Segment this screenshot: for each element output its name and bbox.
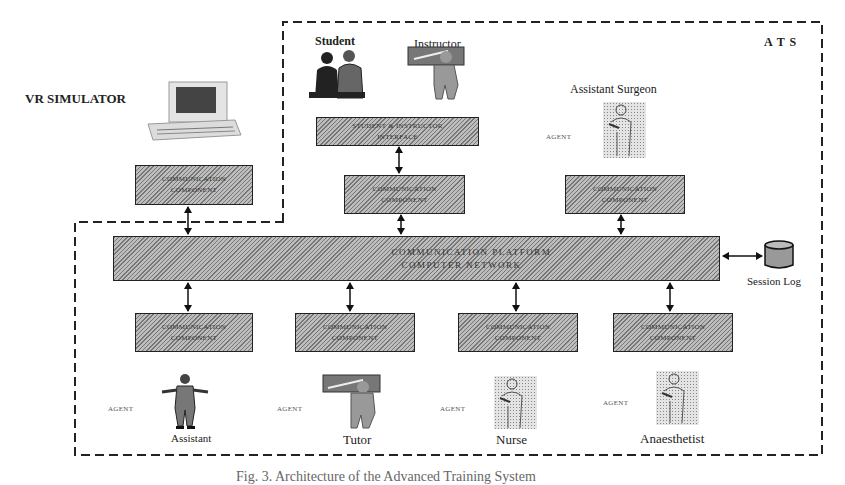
anaesthetist-agent-tag: AGENT [603,399,628,407]
tutor-agent-tag: AGENT [277,405,302,413]
tutor-communication-component: COMMUNICATION COMPONENT [295,313,415,352]
ats-label: A T S [764,35,797,50]
box-label-line2: COMPONENT [381,195,427,206]
assistant-label: Assistant [171,432,211,444]
assistant-communication-component: COMMUNICATION COMPONENT [135,313,253,352]
box-label-line1: COMMUNICATION [162,322,226,333]
box-label-line1: COMMUNICATION [323,322,387,333]
platform-label-line2: COMPUTER NETWORK [401,259,521,272]
vr-communication-component: COMMUNICATION COMPONENT [135,165,253,205]
tutor-label: Tutor [343,432,371,448]
assistant-agent-tag: AGENT [108,405,133,413]
right-communication-component: COMMUNICATION COMPONENT [565,175,685,214]
nurse-communication-component: COMMUNICATION COMPONENT [458,313,578,352]
figure-caption: Fig. 3. Architecture of the Advanced Tra… [236,469,536,485]
database-cylinder-icon [764,240,794,270]
nurse-label: Nurse [496,432,527,448]
assistant-surgeon-label: Assistant Surgeon [570,82,657,97]
box-label-line1: COMMUNICATION [641,322,705,333]
tutor-figure-icon [323,375,383,430]
box-label-line1: COMMUNICATION [486,322,550,333]
anaesthetist-label: Anaesthetist [640,431,704,447]
vr-simulator-label: VR SIMULATOR [25,91,126,107]
box-label-line2: COMPONENT [332,333,378,344]
instructor-figure-icon [408,45,466,101]
box-label-line1: COMMUNICATION [162,174,226,185]
box-label-line2: INTERFACE [377,132,418,143]
student-figures-icon [305,48,370,100]
box-label-line2: COMPONENT [171,185,217,196]
assistant-surgeon-agent-tag: AGENT [546,133,571,141]
nurse-figure-icon [494,376,537,429]
platform-label-line1: COMMUNICATION PLATFORM [392,246,552,259]
session-log-label: Session Log [747,275,801,287]
desktop-computer-icon [143,80,253,144]
box-label-line2: COMPONENT [495,333,541,344]
box-label-line1: COMMUNICATION [372,184,436,195]
nurse-agent-tag: AGENT [440,405,465,413]
box-label-line1: COMMUNICATION [593,184,657,195]
surgeon-figure-icon [603,102,646,158]
box-label-line2: COMPONENT [171,333,217,344]
box-label-line2: COMPONENT [602,195,648,206]
businessman-figure-icon [160,372,210,430]
anaesthetist-communication-component: COMMUNICATION COMPONENT [613,313,733,352]
center-communication-component: COMMUNICATION COMPONENT [344,175,465,214]
student-instructor-interface: STUDENT & INSTRUCTOR INTERFACE [316,117,479,146]
student-label: Student [315,34,355,49]
box-label-line2: COMPONENT [650,333,696,344]
box-label-line1: STUDENT & INSTRUCTOR [352,121,443,132]
anaesthetist-figure-icon [656,371,699,425]
communication-platform: COMMUNICATION PLATFORM COMPUTER NETWORK [113,236,720,281]
